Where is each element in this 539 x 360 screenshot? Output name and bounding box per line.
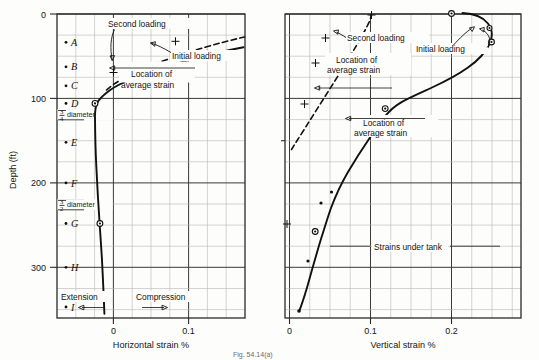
y-tick-label-300: 300 — [31, 263, 46, 273]
marker-dot-a — [330, 190, 333, 193]
marker-circle-dot-D — [92, 101, 98, 107]
depth-label-I: I — [70, 302, 75, 313]
depth-dot-F — [65, 182, 68, 185]
annotation-location-right-line3: Location of — [363, 118, 405, 128]
annotation-location-right-line4: average strain — [354, 128, 407, 138]
marker-circle-dot-mid — [382, 106, 388, 112]
depth-dot-A — [65, 41, 68, 44]
annotation-strains-under-tank-text: Strains under tank — [374, 242, 443, 252]
figure-caption: Fig. 54.14(a) — [233, 351, 273, 359]
annotation-second-loading-right-text: Second loading — [347, 33, 405, 43]
annotation-second-loading-left-text: Second loading — [108, 19, 166, 29]
marker-dot-d — [297, 309, 301, 313]
x-tick-label-0.1-left: 0.1 — [182, 326, 195, 336]
x-tick-label-0-right: 0 — [287, 326, 292, 336]
annotation-initial-loading-left-text: Initial loading — [172, 51, 221, 61]
x-tick-label-0.1-right: 0.1 — [364, 326, 377, 336]
depth-label-B: B — [71, 61, 77, 72]
y-tick-label-0: 0 — [41, 10, 46, 20]
marker-circle-dot-G — [97, 221, 103, 227]
annotation-extension-text: Extension — [61, 292, 98, 302]
depth-label-E: E — [70, 137, 78, 148]
depth-dot-E — [65, 141, 68, 144]
bracket-label-three-quarter-diameter: 3 4 diameter — [58, 108, 113, 122]
annotation-location-average-strain-right-lower: Location of average strain — [346, 115, 439, 138]
y-tick-label-200: 200 — [31, 178, 46, 188]
depth-dot-B — [65, 65, 68, 68]
depth-label-F: F — [70, 178, 78, 189]
bracket-frac-denominator-2: 2 — [60, 205, 63, 212]
bracket-text-1: diameter — [67, 110, 96, 119]
y-tick-label-100: 100 — [31, 94, 46, 104]
depth-label-A: A — [70, 37, 78, 48]
bracket-label-three-halves-diameter: 3 2 diameter — [58, 198, 113, 212]
annotation-location-right-line1: Location of — [336, 55, 378, 65]
marker-circle-dot-top — [449, 11, 455, 17]
depth-dot-D — [65, 102, 68, 105]
figure-svg: 0 100 200 300 Depth (ft) A B C D E F G H… — [0, 0, 539, 360]
marker-circle-dot-bulge-upper — [487, 26, 492, 31]
marker-circle-dot-low — [312, 229, 318, 235]
annotation-initial-loading-right-text: Initial loading — [416, 44, 465, 54]
bracket-text-2: diameter — [67, 200, 96, 209]
figure-container: 0 100 200 300 Depth (ft) A B C D E F G H… — [0, 0, 539, 360]
depth-label-C: C — [71, 80, 78, 91]
annotation-compression-text: Compression — [136, 292, 186, 302]
depth-dot-I — [65, 306, 68, 309]
y-axis-title: Depth (ft) — [8, 151, 18, 189]
annotation-location-left-line1: Location of — [131, 69, 173, 79]
depth-label-H: H — [70, 262, 79, 273]
x-axis-title-right: Vertical strain % — [370, 340, 435, 350]
marker-dot-c — [306, 259, 309, 262]
annotation-location-left-line2: average strain — [121, 80, 174, 90]
depth-dot-C — [65, 84, 68, 87]
x-tick-label-0.2-right: 0.2 — [445, 326, 458, 336]
marker-dot-b — [319, 201, 322, 204]
x-axis-title-left: Horizontal strain % — [113, 340, 189, 350]
annotation-location-right-line2: average strain — [327, 65, 380, 75]
x-tick-label-0-left: 0 — [111, 326, 116, 336]
depth-dot-G — [65, 222, 68, 225]
depth-label-G: G — [71, 218, 79, 229]
depth-label-D: D — [70, 98, 79, 109]
depth-dot-H — [65, 266, 68, 269]
